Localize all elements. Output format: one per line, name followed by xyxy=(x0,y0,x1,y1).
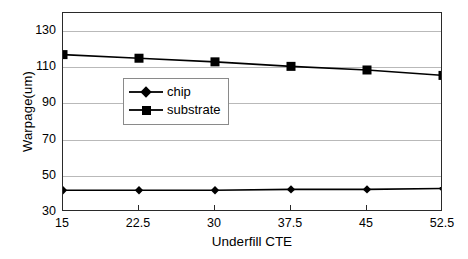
x-axis-tick xyxy=(366,205,367,211)
legend-item-chip: chip xyxy=(129,83,220,101)
x-tick-label: 22.5 xyxy=(126,216,150,230)
x-tick-label: 37.5 xyxy=(278,216,302,230)
square-marker-icon xyxy=(129,103,163,117)
plot-area xyxy=(62,12,442,211)
warpage-vs-underfill-cte-chart: Warpage(um) 30507090110130 1522.53037.54… xyxy=(0,0,468,259)
y-tick-label: 90 xyxy=(14,95,56,109)
data-point-chip xyxy=(439,184,441,192)
data-point-chip xyxy=(211,186,219,194)
x-axis-tick xyxy=(290,205,291,211)
data-point-chip xyxy=(287,185,295,193)
data-point-chip xyxy=(135,186,143,194)
y-tick-label: 30 xyxy=(14,204,56,218)
legend-item-label: chip xyxy=(167,85,191,99)
x-axis-title: Underfill CTE xyxy=(62,234,442,249)
data-series-layer xyxy=(63,13,441,210)
series-line-substrate xyxy=(63,55,441,76)
chart-legend: chip substrate xyxy=(123,78,229,125)
y-tick-label: 50 xyxy=(14,168,56,182)
y-tick-label: 110 xyxy=(14,59,56,73)
data-point-substrate xyxy=(135,54,144,63)
y-tick-label: 70 xyxy=(14,132,56,146)
y-tick-label: 130 xyxy=(14,23,56,37)
data-point-substrate xyxy=(439,71,442,80)
x-axis-tick xyxy=(138,205,139,211)
data-point-substrate xyxy=(211,57,220,66)
x-tick-label: 52.5 xyxy=(430,216,454,230)
legend-item-substrate: substrate xyxy=(129,101,220,119)
data-point-chip xyxy=(363,185,371,193)
diamond-marker-icon xyxy=(129,85,163,99)
plot-inner xyxy=(63,13,441,210)
data-point-chip xyxy=(63,186,67,194)
x-tick-label: 45 xyxy=(359,216,373,230)
series-line-chip xyxy=(63,188,441,190)
data-point-substrate xyxy=(287,62,296,71)
x-tick-label: 15 xyxy=(55,216,69,230)
x-axis-tick xyxy=(214,205,215,211)
data-point-substrate xyxy=(363,65,372,74)
legend-item-label: substrate xyxy=(167,103,220,117)
data-point-substrate xyxy=(63,50,68,59)
x-tick-label: 30 xyxy=(207,216,221,230)
